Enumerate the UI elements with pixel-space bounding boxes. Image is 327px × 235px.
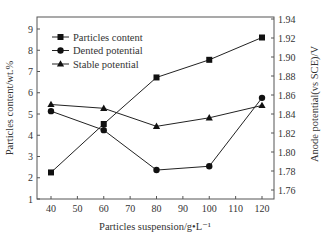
y-tick-label: 4 bbox=[28, 130, 33, 141]
legend-item: Dented potential bbox=[52, 45, 143, 56]
x-axis-title: Particles suspension/g•L⁻¹ bbox=[99, 221, 211, 232]
x-tick-label: 40 bbox=[46, 203, 56, 214]
y-right-tick-label: 1.86 bbox=[278, 90, 296, 101]
legend-label: Stable potential bbox=[73, 59, 139, 70]
legend: Particles contentDented potentialStable … bbox=[52, 32, 143, 70]
circle-marker bbox=[153, 167, 159, 173]
square-marker bbox=[206, 57, 212, 63]
line-chart: 4050607080901001101201234567891.761.781.… bbox=[0, 0, 327, 235]
x-tick-label: 60 bbox=[99, 203, 109, 214]
circle-marker bbox=[206, 163, 212, 169]
y-right-tick-label: 1.78 bbox=[278, 166, 296, 177]
y-axis-right-title: Anode potential(vs SCE)/V bbox=[309, 46, 321, 162]
y-tick-label: 5 bbox=[28, 109, 33, 120]
y-right-tick-label: 1.76 bbox=[278, 185, 296, 196]
x-tick-label: 120 bbox=[255, 203, 270, 214]
y-axis-title: Particles content/wt.% bbox=[4, 61, 15, 156]
square-marker bbox=[154, 74, 160, 80]
y-right-tick-label: 1.92 bbox=[278, 33, 296, 44]
y-tick-label: 9 bbox=[28, 24, 33, 35]
y-right-tick-label: 1.80 bbox=[278, 147, 296, 158]
y-tick-label: 6 bbox=[28, 87, 33, 98]
square-marker bbox=[58, 34, 64, 40]
legend-label: Dented potential bbox=[73, 45, 143, 56]
series-stable-potential bbox=[47, 101, 265, 129]
square-marker bbox=[48, 169, 54, 175]
y-tick-label: 3 bbox=[28, 151, 33, 162]
circle-marker bbox=[48, 108, 54, 114]
legend-item: Stable potential bbox=[52, 59, 139, 70]
y-tick-label: 2 bbox=[28, 172, 33, 183]
circle-marker bbox=[259, 95, 265, 101]
y-right-tick-label: 1.88 bbox=[278, 71, 296, 82]
axes: 4050607080901001101201234567891.761.781.… bbox=[28, 14, 296, 215]
y-tick-label: 1 bbox=[28, 194, 33, 205]
triangle-marker bbox=[47, 101, 54, 107]
x-tick-label: 90 bbox=[178, 203, 188, 214]
chart-container: 4050607080901001101201234567891.761.781.… bbox=[0, 0, 327, 235]
y-right-tick-label: 1.84 bbox=[278, 109, 296, 120]
x-tick-label: 110 bbox=[228, 203, 243, 214]
square-marker bbox=[259, 35, 265, 41]
y-tick-label: 7 bbox=[28, 66, 33, 77]
x-tick-label: 80 bbox=[152, 203, 162, 214]
triangle-marker bbox=[57, 60, 64, 66]
x-tick-label: 100 bbox=[202, 203, 217, 214]
square-marker bbox=[101, 121, 107, 127]
x-tick-label: 50 bbox=[72, 203, 82, 214]
x-tick-label: 70 bbox=[125, 203, 135, 214]
legend-item: Particles content bbox=[52, 32, 143, 43]
y-right-tick-label: 1.90 bbox=[278, 52, 296, 63]
y-right-tick-label: 1.94 bbox=[278, 14, 296, 25]
circle-marker bbox=[57, 47, 63, 53]
y-tick-label: 8 bbox=[28, 45, 33, 56]
circle-marker bbox=[101, 127, 107, 133]
y-right-tick-label: 1.82 bbox=[278, 128, 296, 139]
triangle-marker bbox=[258, 102, 265, 108]
legend-label: Particles content bbox=[73, 32, 143, 43]
series-line bbox=[51, 98, 262, 170]
